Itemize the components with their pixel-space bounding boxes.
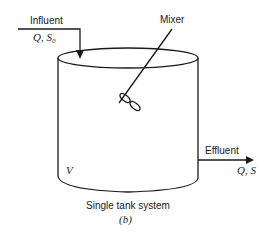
caption-title: Single tank system — [86, 200, 170, 211]
effluent-label: Effluent — [205, 145, 239, 156]
influent-arrowhead — [76, 50, 84, 59]
effluent-vars: Q, S — [237, 164, 256, 176]
volume-label: V — [66, 164, 73, 176]
mixer-blade-2 — [129, 100, 142, 112]
tank-bottom — [58, 176, 198, 192]
influent-label: Influent — [30, 15, 63, 26]
mixer-blade-1 — [119, 92, 132, 104]
effluent-arrowhead — [246, 156, 254, 164]
influent-vars: Q, S₀ — [33, 31, 56, 43]
caption-sublabel: (b) — [119, 213, 132, 225]
mixer-label: Mixer — [160, 14, 184, 25]
